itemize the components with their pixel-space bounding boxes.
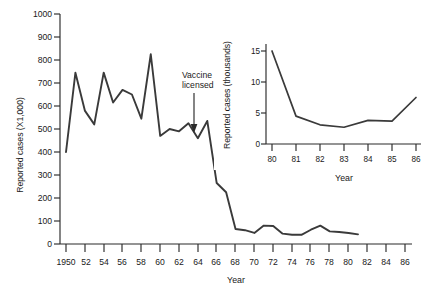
x-tick-58: 58 [136,257,146,267]
x-tick-80: 80 [343,257,353,267]
inset-x-tick-81: 81 [291,155,301,164]
y-tick-200: 200 [38,193,53,203]
inset-x-tick-85: 85 [387,155,397,164]
annotation-line-1: Vaccine [182,70,212,80]
x-tick-56: 56 [117,257,127,267]
y-tick-800: 800 [38,55,53,65]
inset-x-tick-80: 80 [267,155,277,164]
inset-y-axis-title: Reported cases (thousands) [222,41,232,149]
y-tick-500: 500 [38,124,53,134]
x-tick-66: 66 [211,257,221,267]
main-y-tick-labels: 1000 900 800 700 600 500 400 300 200 100… [33,9,52,249]
inset-x-tick-82: 82 [315,155,325,164]
inset-y-tick-5: 5 [255,109,260,118]
x-tick-64: 64 [193,257,203,267]
x-tick-60: 60 [155,257,165,267]
x-tick-54: 54 [99,257,109,267]
annotation-line-2: licensed [182,80,214,90]
y-tick-300: 300 [38,170,53,180]
main-y-ticks [54,14,60,244]
x-tick-72: 72 [268,257,278,267]
x-tick-84: 84 [381,257,391,267]
x-tick-82: 82 [362,257,372,267]
inset-background [214,20,430,170]
figure-root: Reported cases (X1,000) 1000 900 800 700… [0,0,430,295]
x-tick-86: 86 [400,257,410,267]
y-tick-100: 100 [38,216,53,226]
inset-x-tick-84: 84 [363,155,373,164]
x-tick-78: 78 [324,257,334,267]
y-tick-600: 600 [38,101,53,111]
inset-x-tick-86: 86 [411,155,421,164]
inset-y-tick-10: 10 [251,78,261,87]
x-tick-76: 76 [305,257,315,267]
x-tick-70: 70 [249,257,259,267]
y-tick-1000: 1000 [33,9,52,19]
x-tick-68: 68 [230,257,240,267]
main-x-tick-labels: 1950 52 54 56 58 60 62 64 66 68 70 72 74… [56,257,410,267]
main-y-axis-title: Reported cases (X1,000) [15,97,25,193]
y-tick-400: 400 [38,147,53,157]
x-tick-62: 62 [174,257,184,267]
x-tick-74: 74 [287,257,297,267]
inset-plot: Reported cases (thousands) 15 10 5 0 [214,20,430,183]
main-x-ticks [66,244,405,252]
inset-x-tick-83: 83 [339,155,349,164]
main-x-axis-title: Year [227,275,245,285]
inset-y-tick-15: 15 [251,47,261,56]
x-tick-1950: 1950 [56,257,75,267]
measles-incidence-chart: Reported cases (X1,000) 1000 900 800 700… [0,0,430,295]
y-tick-900: 900 [38,32,53,42]
inset-y-tick-0: 0 [255,140,260,149]
inset-x-axis-title: Year [335,173,353,183]
y-tick-700: 700 [38,78,53,88]
y-tick-0: 0 [47,239,52,249]
x-tick-52: 52 [81,257,91,267]
